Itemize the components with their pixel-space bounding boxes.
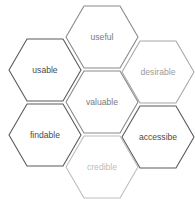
honeycomb-diagram: useful usable desirable valuable findabl… — [0, 0, 195, 205]
hex-usable: usable — [9, 39, 81, 101]
hex-useful: useful — [66, 6, 138, 68]
hex-label-desirable: desirable — [141, 67, 176, 77]
hex-findable: findable — [9, 104, 81, 166]
hex-label-useful: useful — [91, 32, 114, 42]
hex-label-findable: findable — [30, 130, 60, 140]
hex-label-accessibe: accessibe — [139, 132, 177, 142]
hex-label-valuable: valuable — [86, 97, 118, 107]
hex-label-usable: usable — [32, 65, 58, 75]
hex-label-credible: credible — [87, 162, 117, 172]
